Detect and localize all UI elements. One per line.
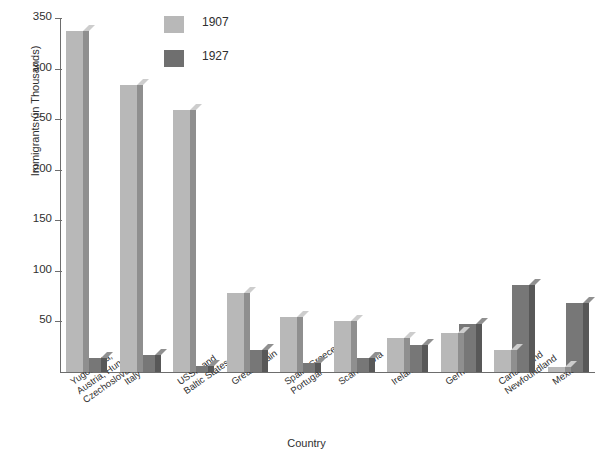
bar-face xyxy=(441,333,458,372)
bar-group xyxy=(66,18,107,372)
legend-label: 1907 xyxy=(202,15,229,29)
bar-top-face xyxy=(422,339,434,345)
bar-side-face xyxy=(583,303,589,372)
bar-top-face xyxy=(155,349,167,355)
bar-side-face xyxy=(315,363,321,372)
bar-face xyxy=(548,367,565,372)
bar-face xyxy=(494,350,511,372)
legend-swatch-1927 xyxy=(164,50,184,67)
bar-group xyxy=(334,18,375,372)
bar-group xyxy=(441,18,482,372)
bar-top-face xyxy=(351,315,363,321)
bar-side-face xyxy=(137,85,143,372)
bar-group xyxy=(387,18,428,372)
bar-side-face xyxy=(262,350,268,372)
bar-side-face xyxy=(190,110,196,372)
bar-face xyxy=(387,338,404,372)
y-tick-label: 300 xyxy=(10,62,52,74)
bar-top-face xyxy=(137,79,149,85)
bar-1907 xyxy=(334,321,351,372)
bar-face xyxy=(66,31,83,372)
legend-item-1907: 1907 xyxy=(164,14,284,48)
bar-face xyxy=(173,110,190,372)
y-tick-label: 150 xyxy=(10,213,52,225)
bar-side-face xyxy=(101,358,107,372)
bar-1907 xyxy=(227,293,244,372)
y-tick-label: 200 xyxy=(10,163,52,175)
bar-top-face xyxy=(244,287,256,293)
bar-side-face xyxy=(565,367,571,372)
y-tick-label: 50 xyxy=(10,314,52,326)
bar-group xyxy=(548,18,589,372)
bar-top-face xyxy=(529,279,541,285)
bar-side-face xyxy=(244,293,250,372)
y-tick-label: 100 xyxy=(10,264,52,276)
bar-1907 xyxy=(387,338,404,372)
bar-face xyxy=(227,293,244,372)
bar-side-face xyxy=(529,285,535,372)
bar-1907 xyxy=(494,350,511,372)
bar-side-face xyxy=(208,366,214,372)
bar-side-face xyxy=(476,324,482,372)
bar-side-face xyxy=(511,350,517,372)
bar-top-face xyxy=(83,25,95,31)
bar-side-face xyxy=(297,317,303,372)
bar-face xyxy=(334,321,351,372)
bar-side-face xyxy=(155,355,161,372)
bar-1907 xyxy=(173,110,190,372)
bar-top-face xyxy=(583,297,595,303)
bar-face xyxy=(120,85,137,372)
bar-side-face xyxy=(369,358,375,372)
bar-1907 xyxy=(66,31,83,372)
bar-top-face xyxy=(190,104,202,110)
bar-side-face xyxy=(422,345,428,372)
bar-face xyxy=(280,317,297,372)
bar-top-face xyxy=(297,311,309,317)
bar-side-face xyxy=(351,321,357,372)
legend-label: 1927 xyxy=(202,49,229,63)
bar-1907 xyxy=(441,333,458,372)
bar-chart: Immigrants (in Thousands) 50100150200250… xyxy=(0,0,613,460)
bar-1907 xyxy=(120,85,137,372)
bar-1907 xyxy=(280,317,297,372)
bar-group xyxy=(120,18,161,372)
legend-swatch-1907 xyxy=(164,16,184,33)
legend-item-1927: 1927 xyxy=(164,48,284,82)
bar-side-face xyxy=(404,338,410,372)
bar-group xyxy=(494,18,535,372)
y-tick-label: 250 xyxy=(10,112,52,124)
bar-side-face xyxy=(83,31,89,372)
plot-area xyxy=(60,18,595,372)
chart-legend: 19071927 xyxy=(164,14,284,82)
y-tick-label: 350 xyxy=(10,11,52,23)
bar-top-face xyxy=(476,318,488,324)
bar-1907 xyxy=(548,367,565,372)
x-axis-title: Country xyxy=(0,437,613,449)
bar-group xyxy=(280,18,321,372)
bar-side-face xyxy=(458,333,464,372)
bar-top-face xyxy=(404,332,416,338)
